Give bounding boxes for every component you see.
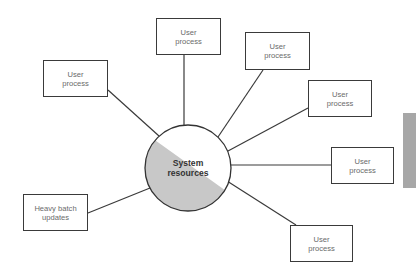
node-user-process-right-upper: User process — [308, 80, 372, 117]
system-resources-label: System resources — [150, 158, 226, 178]
page-edge-tab — [403, 113, 416, 188]
node-user-process-upper-right: User process — [245, 32, 310, 70]
connector-right-upper — [228, 108, 308, 151]
node-heavy-batch-updates: Heavy batch updates — [23, 194, 88, 231]
connector-upper-right — [218, 70, 263, 137]
node-user-process-top: User process — [156, 18, 221, 55]
node-label: User process — [62, 70, 89, 88]
node-user-process-lower-right: User process — [290, 225, 353, 262]
connector-left — [108, 90, 159, 136]
node-label: User process — [308, 235, 335, 253]
connector-lower-left — [88, 188, 150, 213]
connector-lower-right — [227, 181, 296, 225]
node-user-process-right: User process — [331, 147, 394, 184]
node-label: Heavy batch updates — [34, 204, 76, 222]
node-label: User process — [327, 90, 354, 108]
node-label: User process — [175, 28, 202, 46]
node-label: User process — [349, 157, 376, 175]
node-user-process-left: User process — [43, 60, 108, 97]
node-label: User process — [264, 42, 291, 60]
